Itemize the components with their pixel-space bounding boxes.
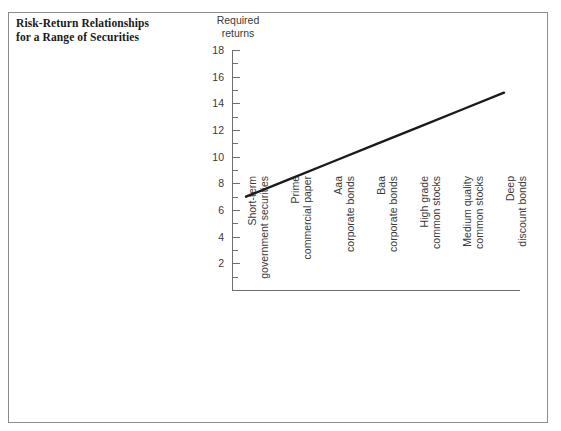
y-tick-minor-7 — [233, 197, 238, 198]
y-tick-minor-15 — [233, 90, 238, 91]
y-tick-minor-1 — [233, 277, 238, 278]
plot-area: Required returns 24681012141618 Short-te… — [0, 0, 561, 431]
y-tick-minor-17 — [233, 63, 238, 64]
x-category-label-3: Baacorporate bonds — [375, 176, 399, 296]
x-category-label-6-line-0: Deep — [504, 176, 516, 296]
x-category-label-4-line-0: High grade — [418, 176, 430, 296]
y-tick-label-10: 10 — [198, 152, 224, 162]
chart-page: Risk-Return Relationships for a Range of… — [0, 0, 561, 431]
x-category-label-0-line-1: government securities — [258, 176, 270, 296]
x-category-label-2-line-1: corporate bonds — [344, 176, 356, 296]
x-category-label-6: Deepdiscount bonds — [504, 176, 528, 296]
y-tick-label-14: 14 — [198, 98, 224, 108]
x-category-label-3-line-0: Baa — [375, 176, 387, 296]
y-tick-label-6: 6 — [198, 205, 224, 215]
y-tick-major-6 — [233, 210, 240, 211]
x-category-label-1-line-1: commercial paper — [301, 176, 313, 296]
y-tick-label-4: 4 — [198, 232, 224, 242]
x-category-label-0: Short-termgovernment securities — [246, 176, 270, 296]
x-category-label-6-line-1: discount bonds — [516, 176, 528, 296]
x-category-label-5: Medium qualitycommon stocks — [461, 176, 485, 296]
y-tick-major-16 — [233, 77, 240, 78]
y-tick-major-8 — [233, 183, 240, 184]
y-axis-title-line-1: Required — [196, 14, 280, 27]
x-category-label-1: Primecommercial paper — [289, 176, 313, 296]
y-tick-major-12 — [233, 130, 240, 131]
y-tick-label-18: 18 — [198, 45, 224, 55]
y-axis-title-line-2: returns — [196, 27, 280, 40]
y-tick-label-16: 16 — [198, 72, 224, 82]
y-axis-title: Required returns — [196, 14, 280, 39]
x-category-label-1-line-0: Prime — [289, 176, 301, 296]
y-tick-minor-9 — [233, 170, 238, 171]
x-category-label-3-line-1: corporate bonds — [387, 176, 399, 296]
x-category-label-4-line-1: common stocks — [430, 176, 442, 296]
x-category-label-5-line-0: Medium quality — [461, 176, 473, 296]
x-category-label-2: Aaacorporate bonds — [332, 176, 356, 296]
y-tick-major-10 — [233, 157, 240, 158]
y-tick-minor-11 — [233, 143, 238, 144]
y-tick-label-12: 12 — [198, 125, 224, 135]
y-tick-label-2: 2 — [198, 258, 224, 268]
y-tick-minor-5 — [233, 223, 238, 224]
y-tick-major-4 — [233, 237, 240, 238]
x-category-label-2-line-0: Aaa — [332, 176, 344, 296]
y-tick-major-14 — [233, 103, 240, 104]
y-tick-major-18 — [233, 50, 240, 51]
y-tick-minor-3 — [233, 250, 238, 251]
x-category-label-5-line-1: common stocks — [473, 176, 485, 296]
y-tick-major-2 — [233, 263, 240, 264]
y-tick-minor-13 — [233, 117, 238, 118]
x-category-label-4: High gradecommon stocks — [418, 176, 442, 296]
x-category-label-0-line-0: Short-term — [246, 176, 258, 296]
y-tick-label-8: 8 — [198, 178, 224, 188]
